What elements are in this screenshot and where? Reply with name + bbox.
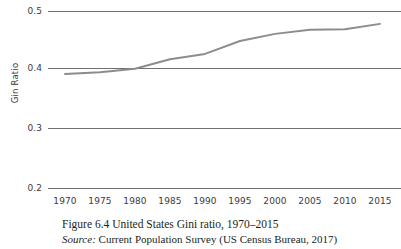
x-tick-label-1970: 1970: [48, 196, 82, 206]
x-tick-label-1985: 1985: [153, 196, 187, 206]
x-tick-label-1980: 1980: [118, 196, 152, 206]
figure-caption-title: Figure 6.4 United States Gini ratio, 197…: [62, 217, 401, 231]
y-tick-label-0_3: 0.3: [12, 123, 42, 133]
figure-caption: Figure 6.4 United States Gini ratio, 197…: [62, 217, 401, 246]
x-tick-label-1995: 1995: [223, 196, 257, 206]
y-tick-label-0_2: 0.2: [12, 183, 42, 193]
x-tick-label-2010: 2010: [328, 196, 362, 206]
x-tick-label-2005: 2005: [293, 196, 327, 206]
chart-plot-area: Gin Ratio 0.5 0.4 0.3 0.2 1970 1975 1980…: [0, 0, 401, 195]
gini-ratio-data-line: [65, 24, 380, 74]
figure-caption-source: Source: Current Population Survey (US Ce…: [62, 232, 401, 246]
figure-container: Gin Ratio 0.5 0.4 0.3 0.2 1970 1975 1980…: [0, 0, 401, 249]
x-tick-label-1975: 1975: [83, 196, 117, 206]
gridlines: [48, 12, 401, 189]
y-tick-label-0_4: 0.4: [12, 63, 42, 73]
source-label: Source:: [62, 233, 96, 245]
x-tick-label-2015: 2015: [363, 196, 397, 206]
x-tick-label-1990: 1990: [188, 196, 222, 206]
x-tick-label-2000: 2000: [258, 196, 292, 206]
source-text: Current Population Survey (US Census Bur…: [96, 233, 337, 245]
gini-ratio-line-chart: [0, 0, 401, 195]
y-tick-label-0_5: 0.5: [12, 6, 42, 16]
y-axis-title: Gin Ratio: [10, 37, 20, 129]
